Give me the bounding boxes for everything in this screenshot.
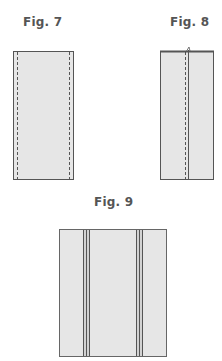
fig8-folded-strip [160,47,214,180]
fig7-strip [14,52,74,180]
fig9-seam-left [83,230,90,356]
fig9-panel [60,230,167,357]
fig9-seam-right [136,230,143,356]
diagram-canvas [0,0,222,361]
